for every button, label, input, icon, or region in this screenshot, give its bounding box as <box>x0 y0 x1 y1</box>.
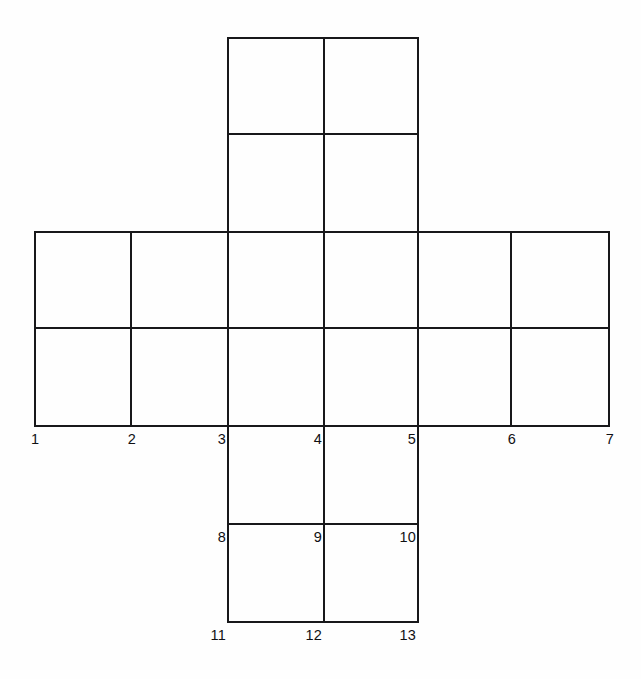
label-12: 12 <box>305 628 322 643</box>
label-8: 8 <box>218 530 226 545</box>
label-5: 5 <box>408 432 416 447</box>
label-3: 3 <box>218 432 226 447</box>
label-1: 1 <box>31 432 39 447</box>
label-4: 4 <box>314 432 322 447</box>
grid-diagram <box>0 0 641 679</box>
label-10: 10 <box>399 530 416 545</box>
vertical-grid-lines <box>35 38 609 622</box>
label-11: 11 <box>211 628 226 643</box>
label-9: 9 <box>314 530 322 545</box>
label-2: 2 <box>128 432 136 447</box>
figure-canvas: 12345678910111213 <box>0 0 641 679</box>
label-7: 7 <box>606 432 614 447</box>
label-13: 13 <box>399 628 416 643</box>
label-6: 6 <box>508 432 516 447</box>
horizontal-grid-lines <box>35 38 609 622</box>
